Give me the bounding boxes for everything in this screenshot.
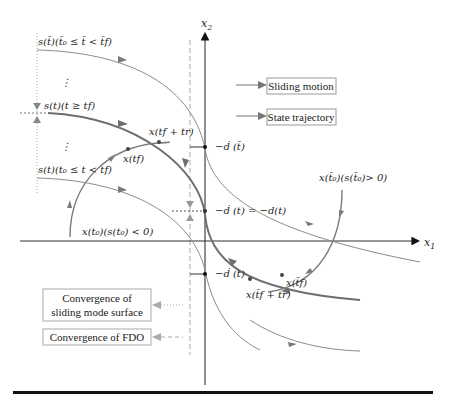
point-x-tf-plus-tr-upper — [157, 140, 161, 144]
label-x-t0-bar: x(t̄₀)(s(t̄₀)> 0) — [319, 172, 387, 183]
surface-label-middle: s(t)(t ≥ tf) — [44, 100, 95, 111]
x1-axis-label: x1 — [424, 236, 435, 251]
trajectory-arrow — [182, 158, 189, 168]
point-x-tf-bar — [280, 273, 284, 277]
label-x-tf-plus-tr: x(tf + tr) — [149, 126, 194, 137]
trajectory-arrow — [228, 258, 237, 266]
point-x-tf-plus-tr-bar — [248, 277, 252, 281]
legend-label: Convergence of FDO — [50, 331, 145, 343]
ellipsis-lower: ⋮ — [61, 141, 71, 152]
legend-sliding-motion: Sliding motion — [236, 78, 336, 94]
trajectory-arrow — [118, 120, 128, 127]
d-mid-dot — [203, 209, 207, 213]
surface-label-lower: s(t)(t₀ ≤ t < tf) — [38, 164, 112, 175]
label-d-mid: −ḋ (t) = −d(t) — [215, 205, 286, 216]
d-under-dot — [203, 272, 207, 276]
label-x-t0-lower: x(t₀)(s(t₀) < 0) — [82, 226, 153, 237]
label-x-tf-plus-tr-bar: x(t̄f + tr) — [246, 289, 291, 300]
ellipsis-upper: ⋮ — [61, 77, 71, 88]
trajectory-arrow — [305, 221, 314, 226]
legend-label: Sliding motion — [268, 80, 334, 92]
legend-label-line2: sliding mode surface — [51, 306, 143, 318]
legend-label-line1: Convergence of — [62, 292, 132, 304]
label-x-tf-bar: x(t̄f) — [286, 277, 307, 288]
trajectory-arrow — [67, 200, 72, 208]
bottom-rule-right — [195, 391, 433, 394]
point-x-tf-upper — [126, 147, 130, 151]
trajectory-arrow — [118, 56, 127, 63]
label-d-under: −ḋ (t) — [215, 268, 245, 279]
legend-label: State trajectory — [268, 111, 335, 123]
surface-curve-bottom-tail — [250, 320, 360, 351]
legend-sliding-surface-convergence: Convergence of sliding mode surface — [43, 289, 183, 321]
legend-state-trajectory: State trajectory — [236, 109, 336, 125]
legend-fdo-convergence: Convergence of FDO — [43, 329, 183, 345]
label-x-tf: x(tf) — [123, 153, 144, 164]
x2-axis-label: x2 — [201, 17, 212, 32]
phase-portrait-diagram: x1 x2 s(t̄)(t̄₀ ≤ t̄ < t̄f) ⋮ s(t)(t ≥ t… — [0, 0, 450, 402]
trajectory-arrow — [108, 154, 116, 162]
d-bar-dot — [203, 145, 207, 149]
surface-label-upper: s(t̄)(t̄₀ ≤ t̄ < t̄f) — [38, 36, 112, 47]
trajectory-arrow — [288, 342, 297, 347]
bottom-rule — [13, 391, 195, 394]
trajectory-arrow — [339, 210, 344, 218]
label-d-bar: −ḋ (t̄) — [215, 141, 245, 152]
sliding-surface-curve — [48, 113, 360, 300]
